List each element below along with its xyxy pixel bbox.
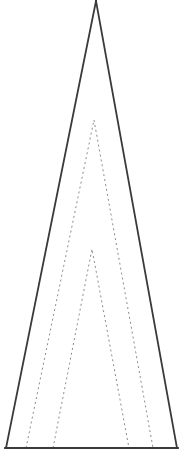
- canvas-background: [0, 0, 182, 456]
- diagram-canvas: [0, 0, 182, 456]
- triangles-svg: [0, 0, 182, 456]
